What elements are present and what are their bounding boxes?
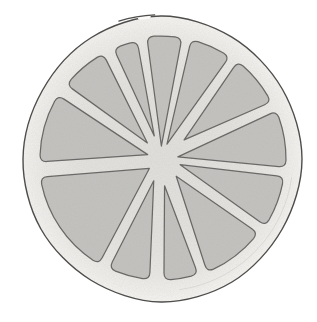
citrus-slice-svg (0, 0, 317, 322)
citrus-slice-figure (0, 0, 317, 322)
stipple-texture (0, 0, 317, 322)
